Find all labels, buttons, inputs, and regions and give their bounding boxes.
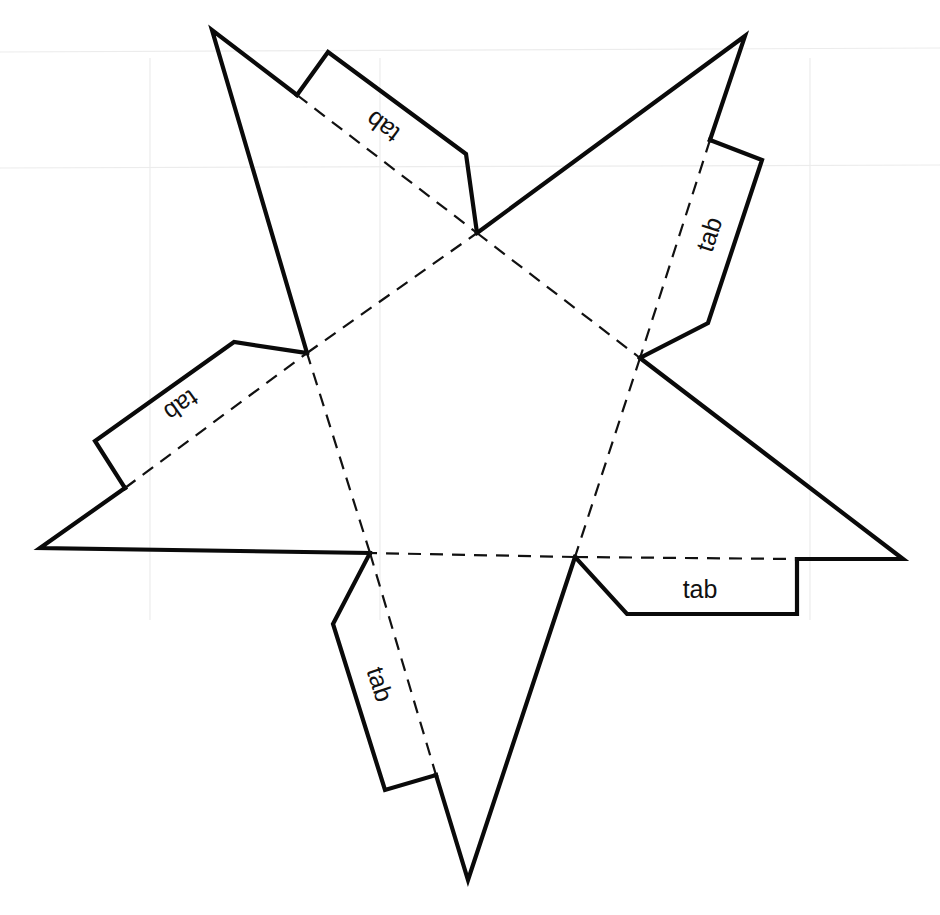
fold-base-edge [370,553,575,557]
ghost-rule [0,48,940,52]
tab-label-right: tab [690,213,727,255]
tab-label-top-left: tab [360,105,405,148]
cut-edge-top-left-spike [212,30,307,353]
fold-base-edge [477,233,640,358]
cut-edge-left-spike [40,488,370,553]
fold-tab-left [125,353,307,488]
fold-base-edge [575,358,640,557]
fold-base-edge [307,233,477,353]
tab-label-bottom-right: tab [683,575,718,603]
cut-edge-tab-left [95,342,307,488]
cut-edge-bottom-spike [436,557,575,880]
tab-label-bottom-left: tab [362,663,399,705]
pyramid-net-diagram: tab tab tab tab tab [0,0,940,915]
cut-edge-top-right-spike [477,36,745,233]
bleed-through-background [0,48,940,620]
fold-lines [125,95,797,775]
fold-tab-bottom-right [575,557,797,559]
fold-base-edge [307,353,370,553]
cut-edge-right-spike [640,358,903,559]
fold-tab-bottom-left [370,553,436,775]
